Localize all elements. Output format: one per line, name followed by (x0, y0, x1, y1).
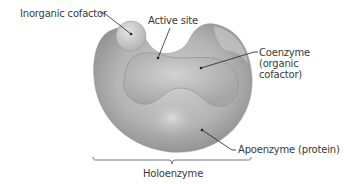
coenzyme-label-line3: cofactor) (259, 69, 310, 80)
enzyme-diagram (0, 0, 344, 184)
holoenzyme-bracket (93, 157, 251, 164)
coenzyme-label: Coenzyme (organic cofactor) (259, 47, 310, 80)
coenzyme-label-line1: Coenzyme (259, 47, 310, 58)
inorganic-cofactor-label: Inorganic cofactor (20, 8, 107, 19)
holoenzyme-label: Holoenzyme (143, 168, 203, 179)
coenzyme-label-line2: (organic (259, 58, 310, 69)
apoenzyme-label: Apoenzyme (protein) (238, 144, 340, 155)
active-site-label: Active site (148, 15, 198, 26)
